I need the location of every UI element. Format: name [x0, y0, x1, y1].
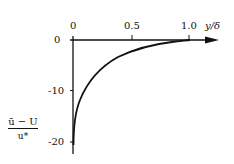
y-tick-label: 0 — [54, 35, 60, 45]
y-tick-label: -10 — [48, 86, 64, 96]
x-tick-label: 1.0 — [181, 21, 197, 31]
y-axis-label: ū − U u* — [8, 116, 38, 141]
x-axis-label: y/δ — [205, 21, 220, 31]
x-axis-arrow-icon — [205, 37, 219, 44]
data-curve — [74, 40, 191, 145]
y-axis-label-denominator: u* — [8, 129, 38, 141]
y-axis-label-numerator: ū − U — [8, 116, 38, 129]
y-tick-label: -20 — [48, 137, 64, 147]
x-tick-label: 0.5 — [124, 21, 140, 31]
x-tick-label: 0 — [70, 21, 76, 31]
